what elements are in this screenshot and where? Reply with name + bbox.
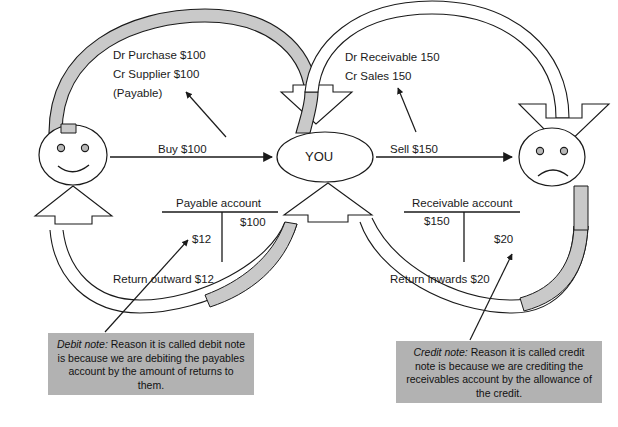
journal-left-line3: (Payable): [113, 86, 162, 101]
buy-label: Buy $100: [158, 142, 207, 157]
receivable-account-title: Receivable account: [412, 196, 512, 211]
journal-right-line2: Cr Sales 150: [345, 69, 411, 84]
credit-note-leader: [470, 254, 512, 340]
credit-note-title: Credit note:: [413, 346, 467, 358]
receivable-account-debit: $150: [424, 214, 450, 229]
supplier-smiley-face: [39, 124, 107, 185]
journal-right-leader: [398, 88, 416, 132]
credit-note-box: Credit note: Reason it is called credit …: [396, 341, 602, 403]
diagram-canvas: Dr Purchase $100 Cr Supplier $100 (Payab…: [0, 0, 618, 427]
debit-note-box: Debit note: Reason it is called debit no…: [48, 333, 254, 395]
supplier-up-arrow-body: [35, 186, 112, 224]
customer-band-segment: [574, 186, 588, 230]
payable-account-credit: $100: [240, 215, 266, 230]
return-inwards-label: Return inwards $20: [390, 272, 490, 287]
journal-left-leader: [186, 92, 226, 137]
customer-sad-face: [519, 128, 585, 186]
journal-right-line1: Dr Receivable 150: [345, 50, 440, 65]
sell-label: Sell $150: [390, 142, 438, 157]
return-inwards-arc: [360, 218, 588, 313]
journal-left-line2: Cr Supplier $100: [113, 67, 199, 82]
receivable-account-credit: $20: [494, 232, 513, 247]
return-inwards-band-fill: [520, 226, 588, 311]
you-label: YOU: [305, 149, 333, 164]
up-arrow-into-you: [284, 183, 372, 222]
payable-account-debit: $12: [192, 232, 211, 247]
debit-note-title: Debit note:: [57, 338, 108, 350]
payable-account-title: Payable account: [176, 196, 261, 211]
return-outward-band-fill: [205, 222, 297, 307]
journal-left-line1: Dr Purchase $100: [113, 48, 206, 63]
return-outward-label: Return outward $12: [113, 272, 214, 287]
